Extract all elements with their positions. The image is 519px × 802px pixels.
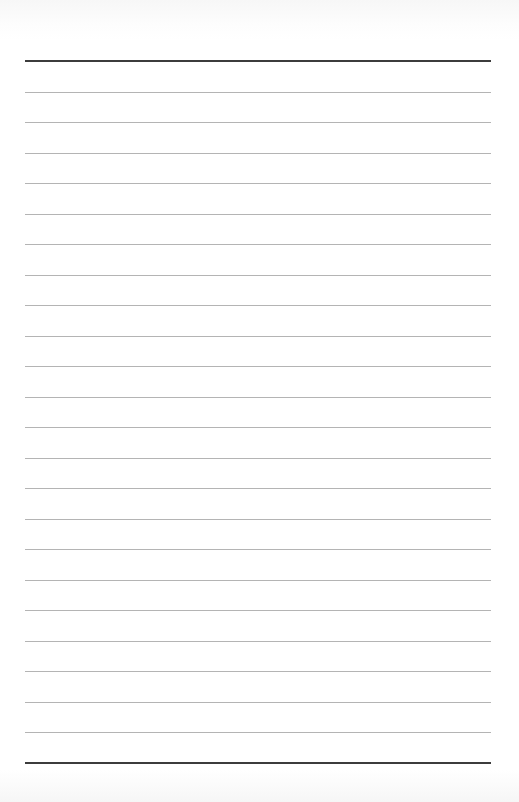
ruled-line — [25, 427, 491, 428]
ruled-line — [25, 366, 491, 367]
ruled-line — [25, 305, 491, 306]
ruled-line — [25, 610, 491, 611]
bottom-border-rule — [25, 762, 491, 764]
ruled-line — [25, 244, 491, 245]
ruled-line — [25, 641, 491, 642]
ruled-line — [25, 549, 491, 550]
ruled-line — [25, 397, 491, 398]
ruled-line — [25, 519, 491, 520]
ruled-line — [25, 214, 491, 215]
ruled-line — [25, 336, 491, 337]
ruled-line — [25, 732, 491, 733]
ruled-line — [25, 153, 491, 154]
ruled-line — [25, 275, 491, 276]
ruled-line — [25, 580, 491, 581]
ruled-line — [25, 183, 491, 184]
ruled-line — [25, 488, 491, 489]
ruled-line — [25, 702, 491, 703]
ruled-line — [25, 458, 491, 459]
ruled-line — [25, 92, 491, 93]
ruled-line — [25, 122, 491, 123]
lined-paper-page — [0, 0, 519, 802]
top-border-rule — [25, 60, 491, 62]
ruled-line — [25, 671, 491, 672]
